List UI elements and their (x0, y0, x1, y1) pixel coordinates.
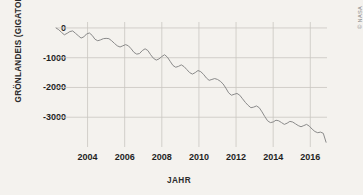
series-line (56, 28, 326, 142)
data-series (56, 28, 326, 142)
gridlines (56, 22, 327, 147)
